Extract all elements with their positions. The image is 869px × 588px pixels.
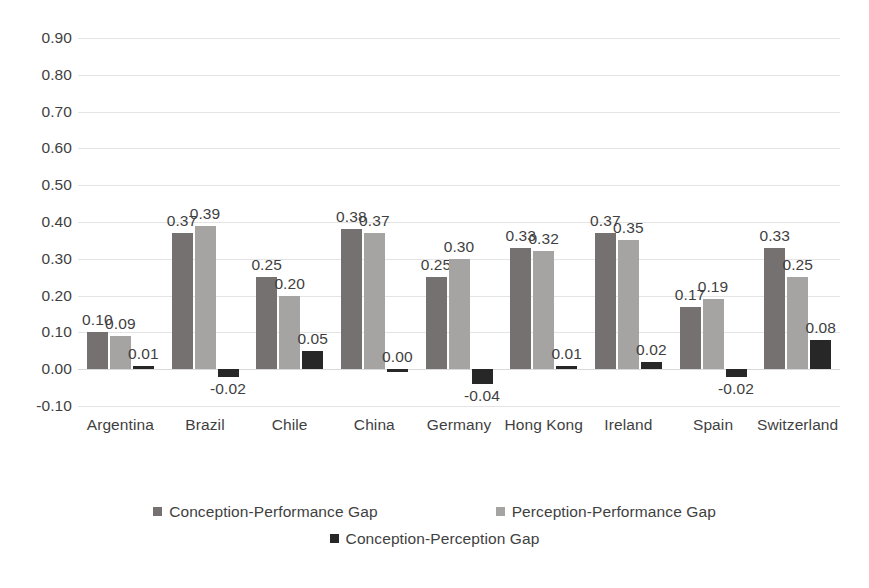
- bars: 0.100.090.01: [78, 38, 163, 406]
- bar-data-label: 0.05: [289, 330, 337, 348]
- bar[interactable]: [195, 226, 216, 370]
- bar-group: 0.250.200.05: [247, 38, 332, 406]
- bar-data-label: 0.37: [350, 212, 398, 230]
- bar-chart: 0.900.800.700.600.500.400.300.200.100.00…: [0, 0, 869, 588]
- bar[interactable]: [641, 362, 662, 369]
- bar-data-label: 0.19: [689, 278, 737, 296]
- y-axis-tick-label: -0.10: [10, 397, 72, 415]
- y-axis-tick-label: 0.70: [10, 103, 72, 121]
- bar[interactable]: [302, 351, 323, 369]
- legend-swatch-icon: [496, 507, 505, 516]
- bar-group: 0.370.350.02: [586, 38, 671, 406]
- bars: 0.370.39-0.02: [163, 38, 248, 406]
- bar-data-label: 0.00: [373, 348, 421, 366]
- y-axis: 0.900.800.700.600.500.400.300.200.100.00…: [0, 38, 72, 406]
- bars: 0.330.250.08: [755, 38, 840, 406]
- bar[interactable]: [472, 369, 493, 384]
- y-axis-tick-label: 0.60: [10, 139, 72, 157]
- bar-groups: 0.100.090.010.370.39-0.020.250.200.050.3…: [78, 38, 840, 406]
- y-axis-tick-label: 0.00: [10, 360, 72, 378]
- bar[interactable]: [703, 299, 724, 369]
- x-axis-category-labels: ArgentinaBrazilChileChinaGermanyHong Kon…: [78, 410, 840, 440]
- bar-group: 0.370.39-0.02: [163, 38, 248, 406]
- bar[interactable]: [87, 332, 108, 369]
- chart-legend: Conception-Performance Gap Perception-Pe…: [0, 498, 869, 552]
- bars: 0.170.19-0.02: [671, 38, 756, 406]
- bar[interactable]: [510, 248, 531, 369]
- x-axis-category-label: Spain: [671, 410, 756, 440]
- bar[interactable]: [595, 233, 616, 369]
- bar-data-label: 0.01: [119, 345, 167, 363]
- bar-group: 0.170.19-0.02: [671, 38, 756, 406]
- bar[interactable]: [726, 369, 747, 376]
- x-axis-category-label: Ireland: [586, 410, 671, 440]
- legend-swatch-icon: [153, 507, 162, 516]
- bar-data-label: -0.04: [458, 387, 506, 405]
- bars: 0.250.30-0.04: [417, 38, 502, 406]
- legend-label: Conception-Perception Gap: [346, 530, 540, 548]
- legend-label: Conception-Performance Gap: [169, 503, 378, 521]
- bar-group: 0.380.370.00: [332, 38, 417, 406]
- bars: 0.380.370.00: [332, 38, 417, 406]
- bar-data-label: -0.02: [204, 380, 252, 398]
- bar-data-label: 0.32: [520, 230, 568, 248]
- bar-data-label: 0.25: [774, 256, 822, 274]
- bar-group: 0.100.090.01: [78, 38, 163, 406]
- y-axis-tick-label: 0.30: [10, 250, 72, 268]
- legend-row-top: Conception-Performance Gap Perception-Pe…: [0, 498, 869, 525]
- legend-swatch-icon: [330, 534, 339, 543]
- y-axis-tick-label: 0.80: [10, 66, 72, 84]
- bar-data-label: 0.01: [543, 345, 591, 363]
- bar[interactable]: [387, 369, 408, 372]
- x-axis-category-label: Hong Kong: [501, 410, 586, 440]
- bars: 0.330.320.01: [501, 38, 586, 406]
- x-axis-category-label: Chile: [247, 410, 332, 440]
- bar[interactable]: [218, 369, 239, 376]
- bar[interactable]: [556, 366, 577, 370]
- bar[interactable]: [172, 233, 193, 369]
- bar-data-label: 0.02: [627, 341, 675, 359]
- y-axis-tick-label: 0.20: [10, 287, 72, 305]
- x-axis-category-label: Brazil: [163, 410, 248, 440]
- x-axis-category-label: Germany: [417, 410, 502, 440]
- legend-item-conception-performance-gap[interactable]: Conception-Performance Gap: [153, 503, 378, 521]
- bar-data-label: -0.02: [712, 380, 760, 398]
- bar[interactable]: [810, 340, 831, 369]
- y-axis-tick-label: 0.40: [10, 213, 72, 231]
- bars: 0.250.200.05: [247, 38, 332, 406]
- bar-data-label: 0.25: [243, 256, 291, 274]
- bar-data-label: 0.20: [266, 275, 314, 293]
- y-axis-tick-label: 0.50: [10, 176, 72, 194]
- y-axis-tick-label: 0.90: [10, 29, 72, 47]
- bar[interactable]: [133, 366, 154, 370]
- bar-data-label: 0.35: [604, 219, 652, 237]
- bar-group: 0.250.30-0.04: [417, 38, 502, 406]
- legend-item-conception-perception-gap[interactable]: Conception-Perception Gap: [330, 530, 540, 548]
- gridline: [78, 406, 840, 407]
- bar-data-label: 0.30: [435, 238, 483, 256]
- bar-data-label: 0.33: [751, 227, 799, 245]
- legend-label: Perception-Performance Gap: [512, 503, 716, 521]
- x-axis-category-label: Argentina: [78, 410, 163, 440]
- bar-group: 0.330.320.01: [501, 38, 586, 406]
- bar-data-label: 0.09: [96, 315, 144, 333]
- bar[interactable]: [341, 229, 362, 369]
- bar-data-label: 0.08: [797, 319, 845, 337]
- x-axis-category-label: Switzerland: [755, 410, 840, 440]
- x-axis-category-label: China: [332, 410, 417, 440]
- bar[interactable]: [680, 307, 701, 370]
- y-axis-tick-label: 0.10: [10, 323, 72, 341]
- bar[interactable]: [449, 259, 470, 369]
- legend-item-perception-performance-gap[interactable]: Perception-Performance Gap: [496, 503, 716, 521]
- bar-data-label: 0.39: [181, 205, 229, 223]
- bar-group: 0.330.250.08: [755, 38, 840, 406]
- legend-row-bottom: Conception-Perception Gap: [0, 525, 869, 552]
- bars: 0.370.350.02: [586, 38, 671, 406]
- bar[interactable]: [426, 277, 447, 369]
